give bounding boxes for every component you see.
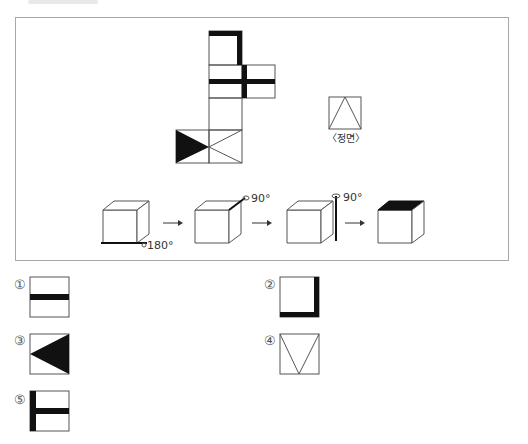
cube-step-3	[287, 201, 333, 243]
cross-vertical-bar	[242, 65, 247, 98]
option-marker-4: ④	[264, 333, 276, 348]
net-face-row3	[209, 98, 242, 130]
option-4[interactable]: ④	[264, 333, 319, 374]
option-1[interactable]: ①	[14, 277, 69, 317]
option-4-face	[280, 334, 319, 374]
option-2-right-bar	[314, 277, 319, 317]
option-2-face	[280, 277, 319, 317]
top-face-right-bar	[237, 31, 242, 65]
option-marker-1: ①	[14, 277, 26, 292]
cube-step-1	[103, 201, 149, 243]
option-marker-2: ②	[264, 277, 276, 292]
arrow-right-icon-1	[163, 220, 183, 226]
rotation-angle-1: 180°	[147, 239, 174, 252]
figure-canvas: 〈정면〉 180° 90° 90°	[0, 0, 528, 444]
option-1-band	[30, 294, 69, 300]
cube-result	[378, 201, 424, 243]
rotation-angle-2: 90°	[251, 192, 271, 205]
option-5-middle-bar	[30, 408, 69, 414]
arrow-right-icon-2	[252, 220, 272, 226]
option-3[interactable]: ③	[14, 333, 69, 374]
net-face-row4-right	[209, 130, 242, 163]
arrow-right-icon-3	[345, 220, 365, 226]
option-5[interactable]: ⑤	[14, 391, 69, 431]
triangle-mark	[176, 130, 209, 163]
option-2[interactable]: ②	[264, 277, 319, 317]
front-view	[329, 97, 361, 129]
rotation-angle-3: 90°	[343, 191, 363, 204]
option-marker-3: ③	[14, 333, 26, 348]
net-markings	[176, 31, 275, 163]
option-2-bottom-bar	[280, 312, 319, 317]
front-view-label: 〈정면〉	[327, 133, 365, 144]
option-marker-5: ⑤	[14, 392, 26, 407]
